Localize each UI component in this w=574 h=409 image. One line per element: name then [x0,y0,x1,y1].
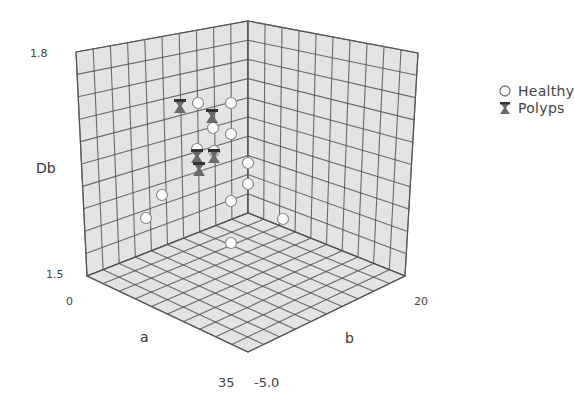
legend-label-polyps: Polyps [518,100,565,116]
hourglass-marker-icon [498,101,512,115]
legend-item-polyps: Polyps [498,99,574,116]
legend: Healthy Polyps [498,82,574,116]
legend-item-healthy: Healthy [498,82,574,99]
healthy-point [208,123,219,134]
healthy-point [226,98,237,109]
legend-label-healthy: Healthy [518,83,574,99]
healthy-point [141,213,152,224]
a-axis-label: a [140,329,149,345]
a-axis-max-tick: 35 [218,375,235,390]
healthy-point [193,98,204,109]
healthy-point [278,214,289,225]
circle-marker-icon [498,84,512,98]
z-axis-min-tick: 1.5 [46,268,64,281]
z-axis-max-tick: 1.8 [30,47,48,60]
healthy-point [243,158,254,169]
healthy-point [226,196,237,207]
b-axis-label: b [345,330,354,346]
healthy-point [157,190,168,201]
healthy-point [226,238,237,249]
b-axis-max-tick: 20 [414,295,428,308]
healthy-point [226,129,237,140]
z-axis-label: Db [36,160,56,176]
b-axis-min-tick: -5.0 [254,375,279,390]
a-axis-min-tick: 0 [66,295,73,308]
healthy-point [243,179,254,190]
